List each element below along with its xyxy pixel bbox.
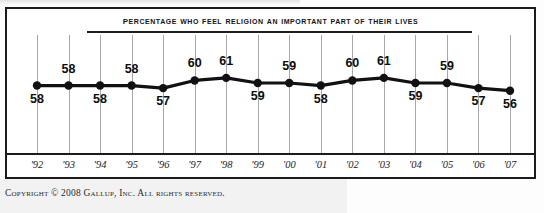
data-point: [317, 81, 325, 89]
x-axis-year-label: '99: [251, 159, 264, 170]
x-axis-year-label: '00: [283, 159, 296, 170]
data-point: [285, 79, 293, 87]
x-axis-year-label: '96: [157, 159, 170, 170]
data-point: [64, 81, 72, 89]
data-point: [190, 76, 198, 84]
data-point: [222, 74, 230, 82]
data-point: [96, 81, 104, 89]
chart-frame: Percentage who feel religion an importan…: [5, 7, 536, 179]
data-point: [443, 79, 451, 87]
copyright-notice: Copyright © 2008 Gallup, Inc. All rights…: [5, 188, 335, 198]
data-point: [127, 81, 135, 89]
title-underline-rule: [87, 31, 472, 33]
line-series: [7, 35, 534, 159]
data-point-label: 61: [377, 54, 391, 68]
data-point-label: 58: [125, 62, 139, 76]
data-point-label: 59: [251, 89, 265, 103]
data-point-label: 59: [282, 59, 296, 73]
data-point-label: 60: [345, 56, 359, 70]
x-axis-year-label: '05: [441, 159, 454, 170]
data-point-label: 60: [188, 56, 202, 70]
data-point-label: 59: [440, 59, 454, 73]
data-point-label: 56: [503, 97, 517, 111]
x-axis-year-label: '98: [220, 159, 233, 170]
scan-artifact-top: [0, 0, 300, 5]
data-point-label: 58: [30, 92, 44, 106]
data-point-label: 58: [314, 92, 328, 106]
data-point-label: 59: [408, 89, 422, 103]
data-point-label: 58: [62, 62, 76, 76]
x-axis-year-label: '07: [504, 159, 517, 170]
data-point-label: 57: [472, 94, 486, 108]
data-point: [33, 81, 41, 89]
x-axis-year-label: '97: [188, 159, 201, 170]
x-axis-year-label: '04: [409, 159, 422, 170]
data-point: [254, 79, 262, 87]
series-polyline: [37, 78, 510, 91]
data-point: [380, 74, 388, 82]
chart-title: Percentage who feel religion an importan…: [7, 14, 534, 26]
x-axis-year-label: '95: [125, 159, 138, 170]
x-axis-year-label: '06: [472, 159, 485, 170]
data-point: [474, 84, 482, 92]
x-axis-year-label: '93: [62, 159, 75, 170]
x-axis-year-label: '02: [346, 159, 359, 170]
data-point: [159, 84, 167, 92]
x-axis-year-label: '01: [314, 159, 327, 170]
scanned-chart-page: Percentage who feel religion an importan…: [0, 0, 544, 213]
x-axis-strip: '92'93'94'95'96'97'98'99'00'01'02'03'04'…: [7, 153, 534, 177]
data-point: [506, 87, 514, 95]
data-point-label: 61: [219, 54, 233, 68]
data-point: [348, 76, 356, 84]
x-axis-year-label: '94: [94, 159, 107, 170]
x-axis-year-label: '92: [31, 159, 44, 170]
plot-area: 58585858576061595958606159595756: [7, 35, 534, 159]
x-axis-year-label: '03: [377, 159, 390, 170]
data-point: [411, 79, 419, 87]
data-point-label: 57: [156, 94, 170, 108]
data-point-label: 58: [93, 92, 107, 106]
